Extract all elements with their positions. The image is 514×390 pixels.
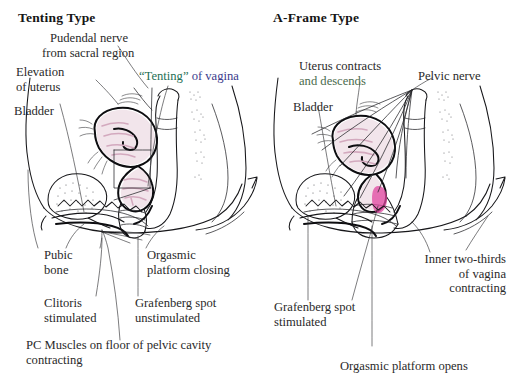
label-orgasmic-platform-opens: Orgasmic platform opens — [340, 359, 468, 374]
label-inner-two-thirds: Inner two-thirds of vagina contracting — [386, 252, 506, 296]
label-inner-two-thirds-line3: contracting — [386, 281, 506, 296]
label-bladder-right: Bladder — [293, 100, 333, 115]
leader-pc-muscles — [102, 230, 120, 340]
label-pudendal-nerve-line1: Pudendal nerve — [50, 31, 134, 46]
label-elevation-line2: of uterus — [16, 80, 64, 95]
left-clitoris — [41, 216, 46, 230]
left-bladder-outline — [48, 174, 107, 220]
label-pubic-bone-line2: bone — [44, 263, 73, 278]
label-grafenberg-right-line1: Grafenberg spot — [274, 300, 355, 315]
right-rectal-fold-1 — [405, 118, 425, 120]
label-orgasmic-platform-line1: Orgasmic — [147, 248, 230, 263]
left-pubic-bone — [56, 223, 128, 236]
label-pubic-bone: Pubic bone — [44, 248, 73, 277]
label-tenting-of-vagina: “Tenting” of vagina — [139, 69, 239, 84]
right-bladder-outline — [296, 174, 355, 220]
left-gluteal-fold-2 — [206, 212, 244, 234]
label-elevation-of-uterus: Elevation of uterus — [16, 65, 64, 94]
label-grafenberg-left-line2: unstimulated — [135, 311, 216, 326]
label-pubic-bone-line1: Pubic — [44, 248, 73, 263]
leader-inner-two-thirds-2 — [466, 216, 488, 250]
label-pudendal-nerve: Pudendal nerve from sacral region — [50, 31, 134, 60]
label-grafenberg-right-line2: stimulated — [274, 315, 355, 330]
label-inner-two-thirds-line2: of vagina — [386, 267, 506, 282]
right-clitoris — [289, 216, 294, 230]
right-sacral-inner-contour — [460, 104, 476, 222]
leader-elevation-uterus — [96, 80, 118, 104]
figure-canvas: Tenting Type Pudendal nerve from sacral … — [0, 0, 514, 390]
label-clitoris-stimulated: Clitoris stimulated — [44, 296, 96, 325]
leader-orgasmic-platform — [146, 226, 164, 248]
label-uterus-contracts-line1: Uterus contracts — [299, 59, 381, 74]
label-uterus-contracts-line2: and descends — [299, 74, 381, 89]
label-tenting-rest: of vagina — [188, 69, 238, 83]
right-vagina-anterior — [352, 197, 358, 222]
label-pudendal-nerve-line2: from sacral region — [42, 46, 134, 61]
left-sacrum-vertebrae — [184, 86, 208, 186]
left-panel-title: Tenting Type — [18, 10, 96, 26]
label-elevation-line1: Elevation — [16, 65, 64, 80]
left-vaginal-rugae-3 — [121, 224, 145, 227]
label-tenting-quoted: “Tenting” — [139, 69, 188, 83]
right-sacrum-vertebrae — [432, 86, 456, 186]
label-pc-muscles: PC Muscles on floor of pelvic cavity con… — [26, 338, 211, 367]
label-orgasmic-platform-line2: platform closing — [147, 263, 230, 278]
leader-bladder-right — [318, 106, 336, 206]
label-pc-muscles-line2: contracting — [26, 353, 211, 368]
left-back-contour — [228, 86, 246, 220]
right-panel-title: A-Frame Type — [273, 10, 359, 26]
right-abdominal-wall — [274, 78, 292, 208]
right-pubic-bone — [304, 223, 376, 236]
label-orgasmic-platform-closing: Orgasmic platform closing — [147, 248, 230, 277]
left-pudendal-nerve-branch-2 — [134, 88, 152, 110]
label-pc-muscles-line1: PC Muscles on floor of pelvic cavity — [26, 338, 211, 353]
left-sacral-inner-contour — [212, 104, 228, 222]
left-rectal-fold-2 — [157, 128, 177, 130]
leader-inner-two-thirds — [412, 222, 430, 252]
label-grafenberg-stimulated: Grafenberg spot stimulated — [274, 300, 355, 329]
right-gluteal-fold-2 — [454, 212, 492, 234]
label-bladder-left: Bladder — [14, 104, 54, 119]
label-grafenberg-left-line1: Grafenberg spot — [135, 296, 216, 311]
label-clitoris-line2: stimulated — [44, 311, 96, 326]
label-pelvic-nerve: Pelvic nerve — [418, 69, 481, 84]
label-grafenberg-unstimulated: Grafenberg spot unstimulated — [135, 296, 216, 325]
right-back-contour — [476, 86, 494, 220]
left-rectum-top — [158, 89, 179, 100]
label-clitoris-line1: Clitoris — [44, 296, 96, 311]
leader-pubic-bone-2 — [28, 170, 38, 248]
label-inner-two-thirds-line1: Inner two-thirds — [386, 252, 506, 267]
left-rectal-fold-1 — [157, 118, 177, 120]
label-uterus-contracts: Uterus contracts and descends — [299, 59, 381, 88]
leader-clitoris — [96, 238, 102, 296]
